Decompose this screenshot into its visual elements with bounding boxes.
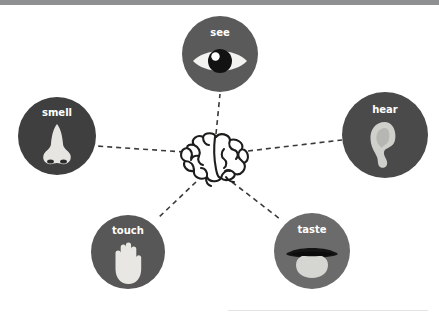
mouth-tongue-icon	[274, 245, 350, 279]
link-brain-hear	[248, 140, 342, 151]
sense-node-touch[interactable]: touch	[91, 215, 165, 289]
brain-icon	[174, 129, 256, 191]
sense-label-taste: taste	[274, 225, 350, 235]
hand-icon	[91, 241, 165, 285]
sense-label-see: see	[182, 28, 258, 38]
sense-node-see[interactable]: see	[182, 16, 258, 92]
diagram-canvas: see smell hear	[0, 0, 439, 319]
sense-node-hear[interactable]: hear	[342, 92, 428, 178]
link-brain-smell	[96, 146, 184, 152]
sense-node-smell[interactable]: smell	[18, 97, 96, 175]
nose-icon	[18, 123, 96, 167]
link-brain-see	[216, 94, 220, 134]
sense-label-hear: hear	[342, 105, 428, 115]
sense-node-taste[interactable]: taste	[274, 213, 350, 289]
ear-icon	[342, 121, 428, 169]
eye-icon	[182, 44, 258, 78]
sense-label-smell: smell	[18, 108, 96, 118]
sense-label-touch: touch	[91, 226, 165, 236]
bottom-divider	[228, 310, 428, 311]
